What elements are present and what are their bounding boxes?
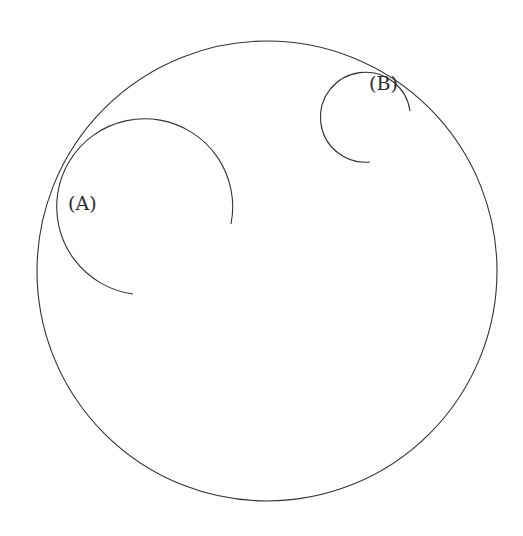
label-b: (B): [369, 72, 398, 94]
outer-circle: [37, 41, 497, 501]
diagram-canvas: (A) (B): [0, 0, 523, 536]
label-a: (A): [68, 192, 97, 214]
